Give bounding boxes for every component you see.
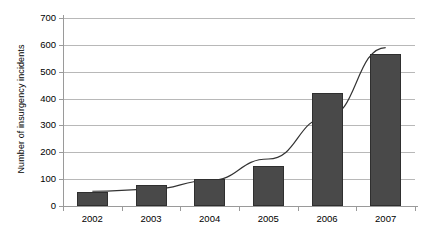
x-axis-tick-mark — [298, 206, 299, 211]
bar-2004 — [194, 179, 225, 206]
y-axis-tick-label: 300 — [4, 120, 56, 130]
y-axis-tick-mark — [59, 152, 64, 153]
bar-2007 — [370, 54, 401, 206]
y-axis-tick-label: 500 — [4, 67, 56, 77]
y-axis-tick-label: 600 — [4, 40, 56, 50]
y-axis-tick-mark — [59, 179, 64, 180]
insurgency-incidents-bar-chart: Number of insurgency incidents 010020030… — [0, 0, 424, 245]
x-axis-tick-label: 2004 — [180, 214, 239, 224]
gridline — [63, 72, 415, 73]
y-axis-tick-label: 700 — [4, 13, 56, 23]
x-axis-tick-mark — [122, 206, 123, 211]
y-axis-tick-label: 100 — [4, 174, 56, 184]
x-axis-tick-label: 2007 — [356, 214, 415, 224]
x-axis-tick-label: 2003 — [122, 214, 181, 224]
bar-2005 — [253, 166, 284, 206]
y-axis-tick-mark — [59, 45, 64, 46]
x-axis-tick-mark — [415, 206, 416, 211]
x-axis-tick-label: 2002 — [63, 214, 122, 224]
x-axis-tick-label: 2005 — [239, 214, 298, 224]
y-axis-tick-mark — [59, 72, 64, 73]
y-axis-tick-labels: 0100200300400500600700 — [0, 0, 56, 245]
y-axis-tick-label: 400 — [4, 94, 56, 104]
bar-2003 — [136, 185, 167, 206]
gridline — [63, 99, 415, 100]
gridline — [63, 45, 415, 46]
y-axis-tick-mark — [59, 99, 64, 100]
y-axis-tick-label: 200 — [4, 147, 56, 157]
gridline — [63, 152, 415, 153]
y-axis-tick-mark — [59, 125, 64, 126]
gridline — [63, 179, 415, 180]
x-axis-tick-label: 2006 — [298, 214, 357, 224]
gridline — [63, 18, 415, 19]
plot-area — [63, 18, 415, 206]
x-axis-tick-mark — [180, 206, 181, 211]
x-axis-tick-mark — [356, 206, 357, 211]
x-axis-tick-mark — [239, 206, 240, 211]
gridline — [63, 125, 415, 126]
y-axis-tick-mark — [59, 18, 64, 19]
y-axis-tick-label: 0 — [4, 201, 56, 211]
bar-2002 — [77, 192, 108, 206]
x-axis-tick-mark — [63, 206, 64, 211]
bar-2006 — [312, 93, 343, 206]
